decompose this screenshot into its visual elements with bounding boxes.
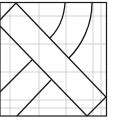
grid-lines <box>0 2 107 116</box>
knot-diagram <box>0 0 121 124</box>
curves <box>50 3 92 58</box>
